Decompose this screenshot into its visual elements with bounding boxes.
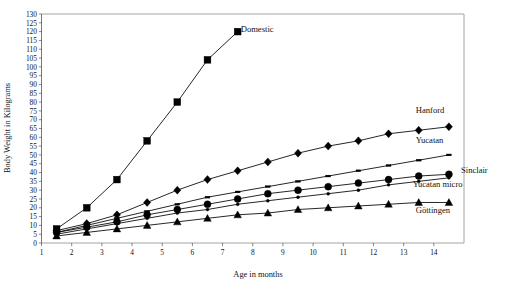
data-point-dash xyxy=(175,203,180,205)
data-point-dash xyxy=(447,154,452,156)
data-point-circle xyxy=(355,180,362,187)
data-point-circle xyxy=(385,176,392,183)
series-label-göttingen: Göttingen xyxy=(416,205,451,215)
y-axis: 0510152025303540455055606570758085909510… xyxy=(26,10,42,248)
data-point-diamond xyxy=(294,149,301,157)
y-tick-label: 35 xyxy=(30,177,38,186)
data-point-diamond xyxy=(385,130,392,138)
x-tick-label: 13 xyxy=(400,248,408,257)
series-sinclair xyxy=(53,171,452,236)
data-point-dot xyxy=(357,189,360,192)
data-series-group xyxy=(53,28,453,239)
series-label-yucatan: Yucatan xyxy=(416,135,444,145)
x-tick-label: 10 xyxy=(309,248,317,257)
data-point-square xyxy=(114,176,121,183)
y-tick-label: 85 xyxy=(30,89,38,98)
x-tick-label: 8 xyxy=(251,248,255,257)
y-tick-label: 75 xyxy=(30,107,38,116)
data-point-square xyxy=(174,99,181,106)
y-tick-label: 50 xyxy=(30,151,38,160)
y-tick-label: 55 xyxy=(30,142,38,151)
x-tick-label: 2 xyxy=(70,248,74,257)
data-point-dash xyxy=(416,159,421,161)
y-tick-label: 30 xyxy=(30,186,38,195)
x-tick-label: 6 xyxy=(191,248,195,257)
x-axis-title: Age in months xyxy=(233,270,282,279)
data-point-dash xyxy=(386,165,391,167)
data-point-dash xyxy=(235,191,240,193)
x-tick-label: 9 xyxy=(281,248,285,257)
x-tick-label: 14 xyxy=(430,248,438,257)
y-tick-label: 5 xyxy=(33,230,37,239)
data-point-dot xyxy=(236,203,239,206)
y-tick-label: 10 xyxy=(30,221,38,230)
data-point-dot xyxy=(297,196,300,199)
y-tick-label: 80 xyxy=(30,98,38,107)
data-point-dot xyxy=(266,199,269,202)
y-tick-label: 60 xyxy=(30,133,38,142)
series-label-yucatan-micro: Yucatan micro xyxy=(413,179,463,189)
x-tick-label: 11 xyxy=(340,248,347,257)
data-point-diamond xyxy=(144,198,151,206)
data-point-dot xyxy=(206,208,209,211)
data-point-circle xyxy=(295,187,302,194)
y-tick-label: 0 xyxy=(33,239,37,248)
y-tick-label: 120 xyxy=(26,27,37,36)
data-point-dash xyxy=(205,196,210,198)
x-tick-label: 12 xyxy=(370,248,378,257)
series-label-hanford: Hanford xyxy=(416,105,445,115)
x-tick-label: 4 xyxy=(130,248,134,257)
data-point-diamond xyxy=(234,167,241,175)
y-tick-label: 130 xyxy=(26,10,37,19)
data-point-dash xyxy=(326,175,331,177)
data-point-dot xyxy=(387,183,390,186)
data-point-diamond xyxy=(355,137,362,145)
x-tick-label: 7 xyxy=(221,248,225,257)
data-point-diamond xyxy=(264,158,271,166)
y-tick-label: 15 xyxy=(30,212,38,221)
series-label-domestic: Domestic xyxy=(241,24,274,34)
y-tick-label: 65 xyxy=(30,124,38,133)
data-point-diamond xyxy=(415,126,422,134)
y-tick-label: 90 xyxy=(30,80,38,89)
y-axis-title: Body Weight in Kilograms xyxy=(3,83,12,173)
y-tick-label: 70 xyxy=(30,115,38,124)
data-point-diamond xyxy=(325,142,332,150)
y-tick-label: 25 xyxy=(30,195,38,204)
data-point-dash xyxy=(265,186,270,188)
y-tick-label: 110 xyxy=(26,45,37,54)
data-point-circle xyxy=(264,190,271,197)
y-tick-label: 95 xyxy=(30,71,38,80)
data-point-dot xyxy=(146,217,149,220)
x-tick-label: 3 xyxy=(100,248,104,257)
data-point-square xyxy=(144,137,151,144)
x-tick-label: 1 xyxy=(40,248,44,257)
data-point-dot xyxy=(327,192,330,195)
chart-canvas: 0510152025303540455055606570758085909510… xyxy=(0,0,514,284)
data-point-diamond xyxy=(174,186,181,194)
data-point-dash xyxy=(356,170,361,172)
data-point-square xyxy=(204,56,211,63)
cropped-title-remnant xyxy=(60,0,400,7)
series-labels-group: DomesticHanfordYucatanSinclairYucatan mi… xyxy=(241,24,488,215)
y-tick-label: 125 xyxy=(26,19,37,28)
data-point-dash xyxy=(296,180,301,182)
y-tick-label: 100 xyxy=(26,63,37,72)
y-tick-label: 105 xyxy=(26,54,37,63)
y-tick-label: 45 xyxy=(30,159,38,168)
data-point-circle xyxy=(325,183,332,190)
x-tick-label: 5 xyxy=(160,248,164,257)
y-tick-label: 40 xyxy=(30,168,38,177)
plot-frame xyxy=(42,14,465,243)
series-göttingen xyxy=(53,199,453,239)
x-axis: 1234567891011121314 xyxy=(40,243,438,257)
data-point-circle xyxy=(204,201,211,208)
series-label-sinclair: Sinclair xyxy=(461,165,488,175)
data-point-diamond xyxy=(204,176,211,184)
data-point-dot xyxy=(176,212,179,215)
y-tick-label: 20 xyxy=(30,203,38,212)
data-point-square xyxy=(83,204,90,211)
y-tick-label: 115 xyxy=(26,36,37,45)
pig-growth-chart-figure: 0510152025303540455055606570758085909510… xyxy=(0,0,514,284)
data-point-diamond xyxy=(445,123,452,131)
